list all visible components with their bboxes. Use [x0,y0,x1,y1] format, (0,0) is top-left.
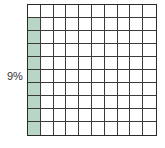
grid-cell [54,31,67,44]
grid-cell [92,96,105,109]
grid-cell [92,109,105,122]
grid-cell [118,18,131,31]
grid-cell-shaded [28,44,41,57]
grid-cell [118,31,131,44]
grid-cell [66,122,79,135]
grid-cell [118,109,131,122]
grid-cell-shaded [28,18,41,31]
grid-cell [92,83,105,96]
grid-cell [130,109,143,122]
grid-cell [54,44,67,57]
grid-cell [105,57,118,70]
hundred-grid [27,4,157,136]
grid-cell [41,5,54,18]
grid-cell [130,122,143,135]
grid-cell [143,57,156,70]
grid-cell [66,18,79,31]
grid-cell [92,122,105,135]
grid-cell [143,31,156,44]
grid-cell [92,57,105,70]
grid-cell [143,44,156,57]
grid-cell [118,70,131,83]
grid-cell [54,57,67,70]
grid-cell [143,109,156,122]
grid-cell-shaded [28,31,41,44]
grid-cell [143,96,156,109]
grid-cell [66,31,79,44]
percent-label: 9% [7,70,23,82]
grid-cell [92,18,105,31]
grid-cell [105,31,118,44]
grid-cell [130,31,143,44]
grid-cell [130,5,143,18]
grid-cell [66,5,79,18]
grid-cell [92,31,105,44]
grid-cell [79,18,92,31]
grid-cell [79,5,92,18]
grid-cell [41,44,54,57]
grid-cell [105,5,118,18]
grid-cell [105,83,118,96]
grid-cell [143,5,156,18]
grid-cell-shaded [28,70,41,83]
grid-cell [41,96,54,109]
grid-cell [130,44,143,57]
grid-cell [54,122,67,135]
grid-cell [143,83,156,96]
grid-cell [92,70,105,83]
grid-cell [105,18,118,31]
grid-cell [143,18,156,31]
grid-cell [41,31,54,44]
grid-cell [105,122,118,135]
grid-cell [105,70,118,83]
grid-cell [41,18,54,31]
grid-cell [118,122,131,135]
grid-cell [54,83,67,96]
grid-cell [130,83,143,96]
grid-cell [79,109,92,122]
grid-cell [143,122,156,135]
grid-cell [41,83,54,96]
grid-cell [54,70,67,83]
grid-cell [105,109,118,122]
grid-cell [118,83,131,96]
grid-cell-shaded [28,109,41,122]
grid-cell [92,44,105,57]
grid-cell [66,96,79,109]
grid-cell [118,96,131,109]
grid-cell-shaded [28,122,41,135]
grid-cell [66,44,79,57]
grid-cell-shaded [28,57,41,70]
grid-cell [79,122,92,135]
grid-cell [79,96,92,109]
grid-cell [118,44,131,57]
grid-cell [130,96,143,109]
grid-cell [66,70,79,83]
grid-cell [79,70,92,83]
grid-cell [28,5,41,18]
grid-cell [66,83,79,96]
grid-cell [79,31,92,44]
grid-cell [41,57,54,70]
grid-cell [66,57,79,70]
grid-cell [54,109,67,122]
grid-cell [130,57,143,70]
grid-cell [41,122,54,135]
grid-cell [105,96,118,109]
grid-cell [118,57,131,70]
grid-cell [54,96,67,109]
grid-cell [130,18,143,31]
grid-cell [105,44,118,57]
grid-cell-shaded [28,83,41,96]
grid-cell [79,83,92,96]
grid-cell [41,109,54,122]
grid-cell [130,70,143,83]
grid-cell-shaded [28,96,41,109]
grid-cell [143,70,156,83]
grid-cell [41,70,54,83]
grid-cell [118,5,131,18]
grid-cell [92,5,105,18]
grid-cell [54,18,67,31]
grid-cell [79,44,92,57]
grid-cell [79,57,92,70]
